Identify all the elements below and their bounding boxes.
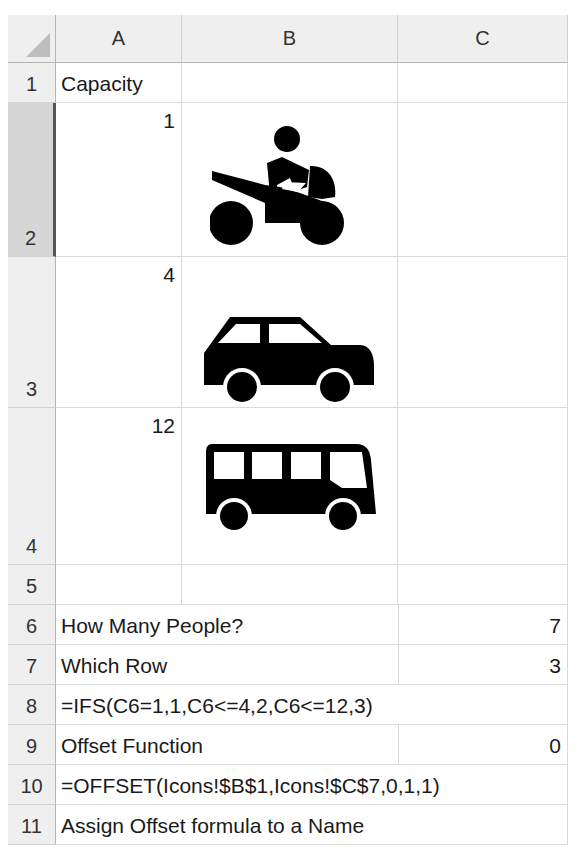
cell-a8-text: =IFS(C6=1,1,C6<=4,2,C6<=12,3) bbox=[61, 694, 373, 718]
cell-a9-text: Offset Function bbox=[61, 734, 203, 758]
cell-c7-value: 3 bbox=[549, 654, 561, 678]
cell-a7[interactable]: Which Row bbox=[56, 645, 398, 685]
cell-c9[interactable]: 0 bbox=[398, 725, 568, 765]
row-header-6[interactable]: 6 bbox=[8, 605, 56, 645]
cell-b1[interactable] bbox=[182, 63, 398, 103]
column-header-a[interactable]: A bbox=[56, 15, 182, 63]
cell-c3[interactable] bbox=[398, 257, 568, 408]
row-header-8[interactable]: 8 bbox=[8, 685, 56, 725]
cell-c6[interactable]: 7 bbox=[398, 605, 568, 645]
cell-a1[interactable]: Capacity bbox=[56, 63, 182, 103]
row-header-4[interactable]: 4 bbox=[8, 408, 56, 565]
cell-a11-text: Assign Offset formula to a Name bbox=[61, 814, 364, 838]
cell-b5[interactable] bbox=[182, 565, 398, 605]
row-header-7[interactable]: 7 bbox=[8, 645, 56, 685]
cell-a3[interactable]: 4 bbox=[56, 257, 182, 408]
row-header-2[interactable]: 2 bbox=[8, 103, 56, 257]
cell-c1[interactable] bbox=[398, 63, 568, 103]
cell-c7[interactable]: 3 bbox=[398, 645, 568, 685]
cell-a11[interactable]: Assign Offset formula to a Name bbox=[56, 805, 568, 845]
cell-c6-value: 7 bbox=[549, 614, 561, 638]
select-all-triangle-icon bbox=[26, 33, 50, 57]
row-header-5[interactable]: 5 bbox=[8, 565, 56, 605]
car-icon[interactable] bbox=[200, 315, 375, 405]
motorcycle-icon[interactable] bbox=[210, 125, 350, 250]
row-header-1[interactable]: 1 bbox=[8, 63, 56, 103]
bus-icon[interactable] bbox=[204, 444, 379, 534]
cell-a2-value: 1 bbox=[163, 109, 175, 133]
select-all-corner[interactable] bbox=[8, 15, 56, 63]
cell-a6[interactable]: How Many People? bbox=[56, 605, 398, 645]
cell-b2[interactable] bbox=[182, 103, 398, 257]
column-header-b[interactable]: B bbox=[182, 15, 398, 63]
cell-a10-text: =OFFSET(Icons!$B$1,Icons!$C$7,0,1,1) bbox=[61, 774, 440, 798]
row-header-11[interactable]: 11 bbox=[8, 805, 56, 845]
cell-a3-value: 4 bbox=[163, 263, 175, 287]
cell-a9[interactable]: Offset Function bbox=[56, 725, 398, 765]
row-header-9[interactable]: 9 bbox=[8, 725, 56, 765]
cell-c9-value: 0 bbox=[549, 734, 561, 758]
cell-c2[interactable] bbox=[398, 103, 568, 257]
cell-b4[interactable] bbox=[182, 408, 398, 565]
row-header-10[interactable]: 10 bbox=[8, 765, 56, 805]
cell-a4[interactable]: 12 bbox=[56, 408, 182, 565]
column-header-c[interactable]: C bbox=[398, 15, 568, 63]
cell-a6-text: How Many People? bbox=[61, 614, 243, 638]
cell-a8[interactable]: =IFS(C6=1,1,C6<=4,2,C6<=12,3) bbox=[56, 685, 568, 725]
row-header-3[interactable]: 3 bbox=[8, 257, 56, 408]
cell-b3[interactable] bbox=[182, 257, 398, 408]
cell-a5[interactable] bbox=[56, 565, 182, 605]
cell-c4[interactable] bbox=[398, 408, 568, 565]
cell-a1-text: Capacity bbox=[61, 72, 143, 96]
cell-c5[interactable] bbox=[398, 565, 568, 605]
cell-a7-text: Which Row bbox=[61, 654, 167, 678]
cell-a4-value: 12 bbox=[152, 414, 175, 438]
cell-a2[interactable]: 1 bbox=[56, 103, 182, 257]
cell-a10[interactable]: =OFFSET(Icons!$B$1,Icons!$C$7,0,1,1) bbox=[56, 765, 568, 805]
